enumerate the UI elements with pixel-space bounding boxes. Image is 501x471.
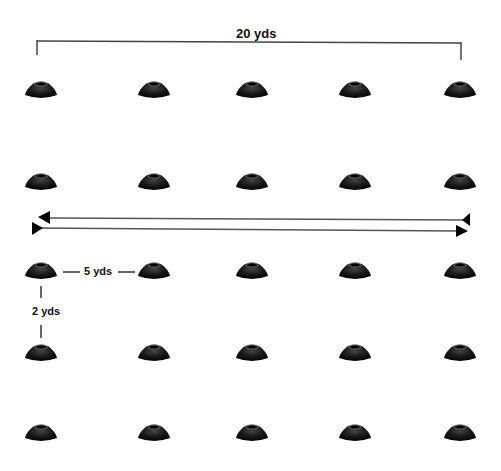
arrow-left-tail	[462, 213, 470, 226]
cone-icon	[444, 345, 476, 361]
cone-icon	[138, 425, 170, 441]
cone-icon	[25, 425, 57, 441]
cone-icon	[236, 345, 268, 361]
cone-icon	[25, 263, 57, 279]
cone-icon	[25, 82, 57, 98]
cone-icon	[25, 345, 57, 361]
cone-icon	[138, 174, 170, 190]
cone-icon	[25, 174, 57, 190]
horizontal-spacing-label: 5 yds	[84, 265, 112, 277]
cone-icon	[138, 263, 170, 279]
cone-icon	[339, 345, 371, 361]
arrow-left-head	[38, 211, 50, 224]
cone-grid	[25, 82, 476, 441]
cone-icon	[339, 82, 371, 98]
width-bracket	[37, 40, 461, 60]
cone-icon	[444, 263, 476, 279]
cone-icon	[236, 82, 268, 98]
total-width-label: 20 yds	[236, 26, 276, 41]
arrow-left-line	[48, 218, 470, 220]
cone-icon	[138, 345, 170, 361]
cone-icon	[444, 425, 476, 441]
arrow-right-line	[34, 228, 458, 231]
cone-icon	[236, 425, 268, 441]
cone-icon	[444, 174, 476, 190]
cone-icon	[444, 82, 476, 98]
vertical-spacing-label: 2 yds	[32, 305, 60, 317]
arrow-right-tail	[32, 222, 43, 235]
double-arrow	[32, 211, 470, 237]
cone-icon	[236, 263, 268, 279]
arrow-right-head	[456, 225, 468, 237]
cone-icon	[339, 174, 371, 190]
cone-icon	[138, 82, 170, 98]
cone-icon	[236, 174, 268, 190]
cone-icon	[339, 425, 371, 441]
cone-icon	[339, 263, 371, 279]
drill-diagram	[0, 0, 501, 471]
